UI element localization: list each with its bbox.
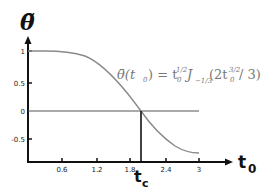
formula-t-sub: 0 [177, 76, 182, 84]
x-tick-label: 1.2 [91, 166, 102, 174]
y-tick-label: 0 [21, 108, 25, 116]
formula-eq: ) = t [148, 67, 178, 82]
x-axis-label-sub: 0 [248, 162, 256, 176]
x-axis-arrow-icon [225, 159, 233, 166]
x-axis-label: t [238, 152, 246, 172]
x-tick-label: 3 [197, 166, 201, 174]
x-tick-label: 2.4 [160, 166, 172, 174]
formula-annotation: θ̄(t 0 ) = t 0 1/2 J −1/3 (2t 0 3/2 / 3) [117, 66, 261, 85]
y-tick-label: -0.5 [11, 136, 25, 144]
formula-arg-sub: 0 [230, 76, 235, 84]
formula-lhs: θ̄(t [117, 67, 136, 82]
tc-label: t [134, 167, 142, 186]
chart: θ̃ t 0 1 0.5 0 -0.5 0.6 1.2 1.8 2.4 3 t … [0, 0, 272, 190]
y-axis-label: θ̃ [20, 9, 35, 35]
x-ticks: 0.6 1.2 1.8 2.4 3 [56, 158, 201, 174]
tc-label-sub: c [142, 177, 149, 190]
x-tick-label: 0.6 [56, 166, 68, 174]
y-tick-label: 0.5 [14, 80, 25, 88]
y-tick-label: 1 [21, 48, 25, 56]
formula-arg-open: (2t [209, 67, 228, 82]
formula-arg-close: / 3) [239, 67, 261, 82]
y-axis-arrow-icon [25, 36, 32, 44]
